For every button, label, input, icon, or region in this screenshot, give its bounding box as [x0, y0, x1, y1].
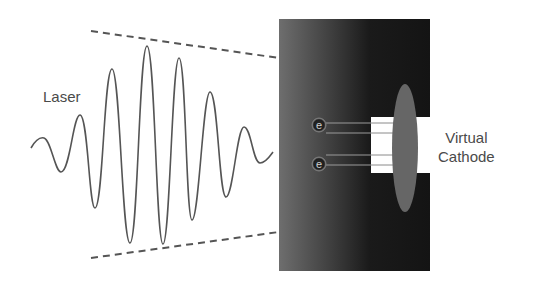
virtual-cathode-label-line1: Virtual	[438, 128, 495, 147]
envelope-top-dashed-line	[91, 31, 279, 58]
electron-symbol: e	[316, 158, 322, 170]
laser-wave-packet	[31, 46, 273, 244]
virtual-cathode-label-line2: Cathode	[438, 147, 495, 166]
virtual-cathode-label: Virtual Cathode	[438, 128, 495, 166]
electron-symbol: e	[316, 119, 322, 131]
envelope-bottom-dashed-line	[91, 232, 279, 258]
electron-2: e	[312, 157, 326, 171]
electron-1: e	[312, 118, 326, 132]
laser-label: Laser	[43, 89, 81, 105]
virtual-cathode-ellipse	[392, 84, 418, 212]
